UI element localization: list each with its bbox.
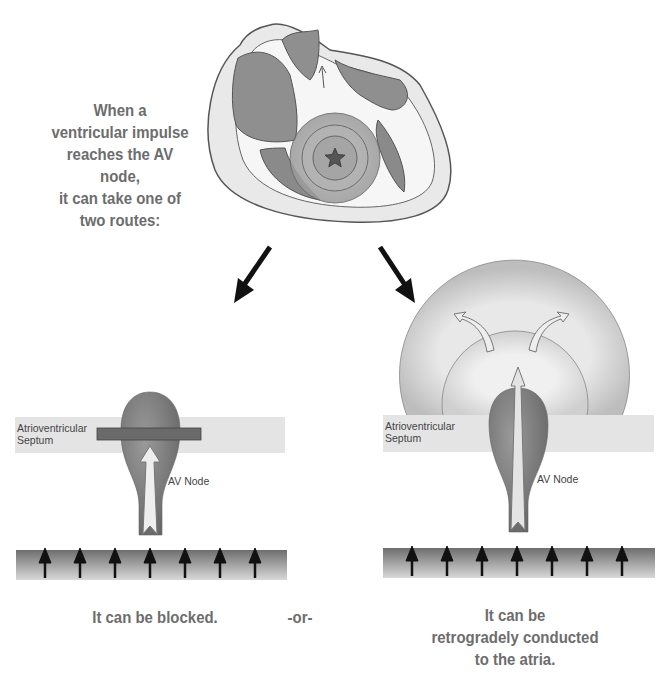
intro-line: ventricular impulse [50, 122, 191, 144]
intro-line: When a [50, 100, 191, 122]
caption-line: It can be [414, 605, 616, 627]
left-septum-label: Atrioventricular Septum [17, 422, 87, 446]
intro-line: it can take one of [50, 188, 191, 210]
left-av-node-label: AV Node [168, 475, 209, 487]
blocked-caption: It can be blocked. [71, 607, 238, 629]
block-bar [97, 428, 201, 440]
retrograde-caption: It can be retrogradely conducted to the … [414, 605, 616, 671]
heart-illustration [208, 24, 451, 222]
caption-line: retrogradely conducted [414, 627, 616, 649]
right-av-node-label: AV Node [537, 473, 578, 485]
or-separator: -or- [274, 607, 327, 629]
septum-label-line: Septum [385, 432, 455, 444]
intro-text: When a ventricular impulse reaches the A… [50, 100, 191, 232]
intro-line: two routes: [50, 210, 191, 232]
arrow-left-route-icon [234, 247, 270, 303]
right-septum-label: Atrioventricular Septum [385, 420, 455, 444]
caption-line: to the atria. [414, 649, 616, 671]
intro-line: reaches the AV node, [50, 144, 191, 188]
arrow-right-route-icon [380, 247, 415, 303]
septum-label-line: Atrioventricular [17, 422, 87, 434]
septum-label-line: Septum [17, 434, 87, 446]
septum-label-line: Atrioventricular [385, 420, 455, 432]
